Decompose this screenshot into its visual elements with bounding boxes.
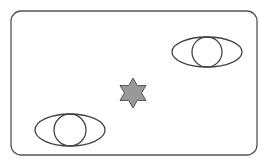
eye-icon-top-right [172,37,242,67]
diagram-canvas [0,0,266,164]
star-icon [120,78,146,108]
eye-outline [35,114,105,146]
eye-outline [172,37,242,67]
eye-pupil [54,114,86,146]
eye-pupil [192,37,222,67]
eye-icon-bottom-left [35,114,105,146]
